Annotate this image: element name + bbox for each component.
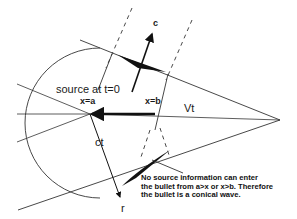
inner-line-lower [17,114,90,142]
x-b-label: x=b [145,96,161,106]
source-label: source at t=0 [56,83,120,95]
r-label: r [121,202,125,214]
note-pointer [152,160,183,173]
dashed-line-a-lower [140,130,150,160]
vt-label: Vt [184,102,194,114]
dashed-line-b-upper [166,20,192,80]
upper-wedge [118,55,166,72]
wavefront-circle [25,48,100,198]
explanation-note: No source information can enter the bull… [141,174,297,200]
ct-label: ct [95,136,104,148]
note-line: the bullet is a conical wave. [141,191,297,200]
x-a-label: x=a [80,96,96,106]
c-label: c [153,18,158,28]
r-arrow [90,114,120,197]
cone-upper-line [80,40,280,120]
